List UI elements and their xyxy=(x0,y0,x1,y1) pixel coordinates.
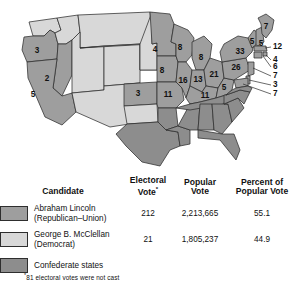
candidate-mcclellan-name: George B. McClellan xyxy=(34,230,110,239)
cell-mcclellan-popular: 1,805,237 xyxy=(170,227,230,253)
label-indiana: 13 xyxy=(193,75,203,84)
state-connecticut xyxy=(254,52,262,58)
callout-connecticut: 6 xyxy=(273,62,278,71)
cell-lincoln-percent: 55.1 xyxy=(230,201,294,227)
label-wisconsin: 8 xyxy=(178,43,183,52)
header-percent-line1: Percent of xyxy=(241,177,283,187)
label-michigan: 8 xyxy=(199,53,204,62)
header-electoral-star: * xyxy=(156,186,158,192)
label-west-virginia: 5 xyxy=(222,83,227,92)
candidate-lincoln-party: (Republican–Union) xyxy=(34,214,106,224)
cell-lincoln-electoral: 212 xyxy=(126,201,170,227)
label-illinois: 16 xyxy=(178,76,188,85)
label-kansas: 3 xyxy=(136,89,141,98)
candidate-lincoln-name: Abraham Lincoln xyxy=(34,204,95,213)
label-california: 5 xyxy=(31,90,36,99)
footnote: *81 electoral votes were not cast xyxy=(24,272,119,281)
state-kansas xyxy=(124,82,157,106)
label-nevada: 2 xyxy=(45,74,50,83)
state-colorado-territory xyxy=(104,44,140,86)
state-alabama xyxy=(198,104,214,130)
callout-new-jersey: 7 xyxy=(273,71,278,80)
callout-vote-labels: 12 4 6 7 3 7 xyxy=(273,42,283,98)
state-indian-territory xyxy=(124,104,158,124)
header-candidate: Candidate xyxy=(0,176,126,201)
candidate-lincoln: Abraham Lincoln (Republican–Union) xyxy=(34,204,106,224)
label-iowa: 8 xyxy=(160,66,165,75)
label-minnesota: 4 xyxy=(153,45,158,54)
label-new-hampshire: 5 xyxy=(259,39,264,48)
label-missouri: 11 xyxy=(164,90,173,99)
cell-candidate-lincoln: Abraham Lincoln (Republican–Union) xyxy=(0,201,126,227)
callout-massachusetts: 12 xyxy=(273,42,283,51)
confederate-label: Confederate states xyxy=(34,261,103,270)
cell-mcclellan-electoral: 21 xyxy=(126,227,170,253)
label-pennsylvania: 26 xyxy=(231,63,241,72)
header-electoral-vote: Electoral Vote* xyxy=(126,176,170,201)
header-popular-line1: Popular xyxy=(184,177,216,187)
candidate-mcclellan-party: (Democrat) xyxy=(34,240,110,250)
table-row: Abraham Lincoln (Republican–Union) 212 2… xyxy=(0,201,294,227)
header-popular-vote: Popular Vote xyxy=(170,176,230,201)
table-header-row: Candidate Electoral Vote* Popular Vote P… xyxy=(0,176,294,201)
election-map: 3 2 5 3 4 8 8 8 11 16 13 21 11 5 26 33 7… xyxy=(0,0,294,182)
label-oregon: 3 xyxy=(35,46,40,55)
candidate-mcclellan: George B. McClellan (Democrat) xyxy=(34,230,110,250)
callout-maryland: 7 xyxy=(273,89,278,98)
header-percent-line2: Popular Vote xyxy=(236,186,288,196)
label-new-york: 33 xyxy=(235,47,245,56)
cell-confed-blank-2 xyxy=(170,252,230,276)
results-table: Candidate Electoral Vote* Popular Vote P… xyxy=(0,176,294,276)
header-percent: Percent of Popular Vote xyxy=(230,176,294,201)
label-vermont: 5 xyxy=(250,37,255,46)
table-row: George B. McClellan (Democrat) 21 1,805,… xyxy=(0,227,294,253)
state-new-jersey xyxy=(248,62,254,76)
label-ohio: 21 xyxy=(209,70,219,79)
header-electoral-line2: Vote xyxy=(138,186,156,196)
callout-delaware: 3 xyxy=(273,80,278,89)
cell-candidate-mcclellan: George B. McClellan (Democrat) xyxy=(0,227,126,253)
cell-confed-blank-1 xyxy=(126,252,170,276)
label-maine: 7 xyxy=(264,22,269,31)
header-electoral-line1: Electoral xyxy=(130,175,166,185)
label-kentucky: 11 xyxy=(201,91,210,100)
state-florida xyxy=(198,130,240,160)
cell-mcclellan-percent: 44.9 xyxy=(230,227,294,253)
swatch-mcclellan xyxy=(0,232,28,247)
legend-table: Candidate Electoral Vote* Popular Vote P… xyxy=(0,176,294,283)
cell-lincoln-popular: 2,213,665 xyxy=(170,201,230,227)
footnote-text: 81 electoral votes were not cast xyxy=(26,274,119,281)
swatch-lincoln xyxy=(0,206,28,221)
header-popular-line2: Vote xyxy=(191,186,209,196)
us-map-svg: 3 2 5 3 4 8 8 8 11 16 13 21 11 5 26 33 7… xyxy=(0,0,294,182)
cell-confed-blank-3 xyxy=(230,252,294,276)
